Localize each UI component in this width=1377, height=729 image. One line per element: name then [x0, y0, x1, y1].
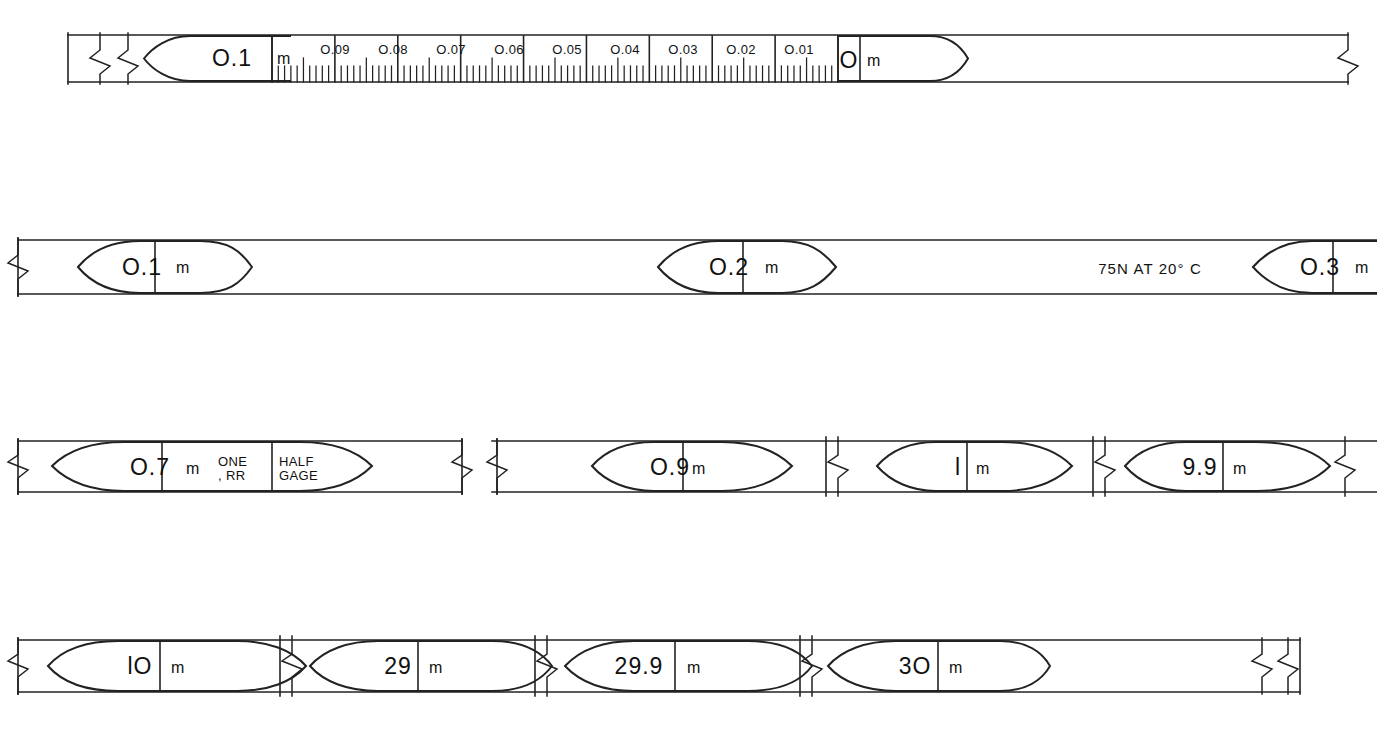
- row3-extra-text-half-gage: HALF GAGE: [279, 455, 318, 483]
- row4-marker-3-unit: m: [949, 659, 963, 677]
- row1-tick-label-7: O.02: [726, 42, 755, 57]
- row1-tick-label-3: O.06: [494, 42, 523, 57]
- row4-marker-0-unit: m: [171, 659, 185, 677]
- row3-marker-1-value: O.9: [650, 454, 690, 481]
- row3-marker-3-unit: m: [1233, 460, 1247, 478]
- row3-marker-0-unit: m: [186, 460, 200, 478]
- row1-marker-1-value: O: [840, 47, 859, 74]
- row1-tick-label-0: O.09: [320, 42, 349, 57]
- row1-tick-label-6: O.03: [668, 42, 697, 57]
- tape-diagram-svg: [0, 0, 1377, 729]
- row4-marker-0-value: lO: [128, 653, 153, 680]
- row4-marker-1-value: 29: [384, 653, 412, 680]
- row1-marker-1-unit: m: [867, 52, 881, 70]
- extra-line-half: HALF: [279, 454, 314, 469]
- row1-marker-0-value: O.1: [212, 45, 252, 72]
- row2-marker-0-value: O.1: [122, 254, 162, 281]
- row2-marker-1-value: O.2: [709, 254, 749, 281]
- row3-extra-text-one-rr: ONE , RR: [218, 455, 247, 483]
- row3-marker-2-value: l: [955, 454, 961, 481]
- row3-marker-0-value: O.7: [130, 454, 170, 481]
- row2-marker-0-unit: m: [176, 259, 190, 277]
- row1-marker-0-unit: m: [277, 50, 291, 68]
- row4-marker-1-unit: m: [429, 659, 443, 677]
- row4-marker-2-value: 29.9: [615, 653, 664, 680]
- extra-line-one: ONE: [218, 454, 247, 469]
- drawing-sheet: O.1 m O.09 O.08 O.07 O.06 O.05 O.04 O.03…: [0, 0, 1377, 729]
- row2-marker-2-value: O.3: [1300, 254, 1340, 281]
- row4-marker-3-value: 3O: [899, 653, 932, 680]
- row1-tick-label-5: O.04: [610, 42, 639, 57]
- row3-marker-2-unit: m: [976, 460, 990, 478]
- extra-line-rr: , RR: [218, 468, 246, 483]
- row2-marker-1-unit: m: [765, 259, 779, 277]
- row2-marker-2-unit: m: [1355, 259, 1369, 277]
- row1-tick-label-4: O.05: [552, 42, 581, 57]
- row3-marker-1-unit: m: [692, 460, 706, 478]
- extra-line-gage: GAGE: [279, 468, 318, 483]
- row4-marker-2-unit: m: [687, 659, 701, 677]
- tension-temperature-note: 75N AT 20° C: [1098, 260, 1202, 277]
- row3-marker-3-value: 9.9: [1183, 454, 1218, 481]
- row1-tick-label-2: O.07: [436, 42, 465, 57]
- row1-tick-label-8: O.01: [784, 42, 813, 57]
- row1-tick-label-1: O.08: [378, 42, 407, 57]
